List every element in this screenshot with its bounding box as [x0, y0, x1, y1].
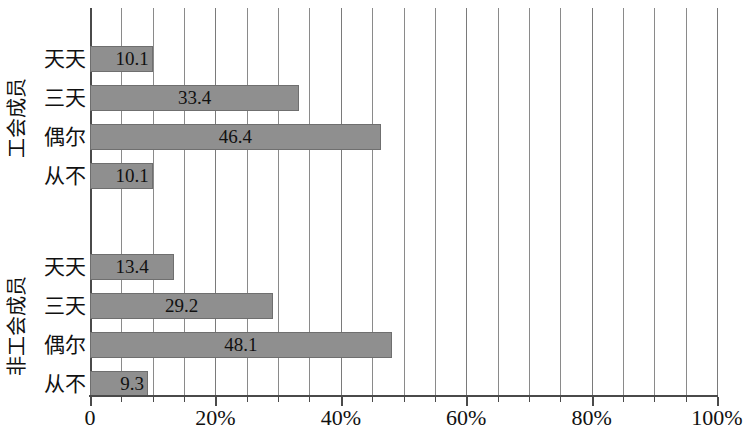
gridline-50	[404, 8, 405, 395]
tick-70	[529, 397, 530, 402]
bar-value-label-1-3: 9.3	[96, 371, 168, 397]
tick-55	[435, 397, 436, 402]
plot-area: 10.133.446.410.113.429.248.19.3	[90, 8, 717, 395]
gridline-100	[717, 8, 718, 395]
bar-value-label-1-2: 48.1	[205, 332, 277, 358]
bar-value-label-0-3: 10.1	[96, 163, 168, 189]
category-label-0-0: 天天	[22, 46, 86, 72]
category-label-1-1: 三天	[22, 293, 86, 319]
gridline-65	[498, 8, 499, 395]
group-label-text-1: 非工会成员	[1, 276, 30, 376]
x-tick-label-40pct: 40%	[321, 405, 361, 431]
gridline-80	[592, 8, 593, 395]
category-label-1-0: 天天	[22, 254, 86, 280]
bar-value-label-0-2: 46.4	[199, 124, 271, 150]
gridline-75	[560, 8, 561, 395]
tick-90	[654, 397, 655, 402]
group-label-text-0: 工会成员	[1, 78, 30, 158]
bar-value-label-1-0: 13.4	[96, 254, 168, 280]
tick-15	[184, 397, 185, 402]
x-tick-label-60pct: 60%	[446, 405, 486, 431]
x-tick-label-80pct: 80%	[571, 405, 611, 431]
group-label-0: 工会成员	[2, 46, 28, 189]
x-tick-label-20pct: 20%	[195, 405, 235, 431]
gridline-55	[435, 8, 436, 395]
x-tick-label-100pct: 100%	[691, 405, 742, 431]
gridline-95	[686, 8, 687, 395]
tick-65	[498, 397, 499, 402]
gridline-70	[529, 8, 530, 395]
bar-value-label-1-1: 29.2	[146, 293, 218, 319]
tick-10	[153, 397, 154, 402]
tick-5	[121, 397, 122, 402]
tick-30	[278, 397, 279, 402]
category-label-0-3: 从不	[22, 163, 86, 189]
gridline-60	[466, 8, 467, 395]
gridline-90	[654, 8, 655, 395]
tick-85	[623, 397, 624, 402]
gridline-85	[623, 8, 624, 395]
tick-50	[404, 397, 405, 402]
tick-35	[309, 397, 310, 402]
tick-25	[247, 397, 248, 402]
category-label-0-1: 三天	[22, 85, 86, 111]
category-label-1-3: 从不	[22, 371, 86, 397]
tick-45	[372, 397, 373, 402]
tick-95	[686, 397, 687, 402]
bar-value-label-0-0: 10.1	[96, 46, 168, 72]
category-label-1-2: 偶尔	[22, 332, 86, 358]
bar-value-label-0-1: 33.4	[159, 85, 231, 111]
group-label-1: 非工会成员	[2, 254, 28, 397]
x-tick-label-0: 0	[85, 405, 96, 431]
bar-chart: 10.133.446.410.113.429.248.19.3 020%40%6…	[0, 0, 748, 435]
tick-75	[560, 397, 561, 402]
category-label-0-2: 偶尔	[22, 124, 86, 150]
